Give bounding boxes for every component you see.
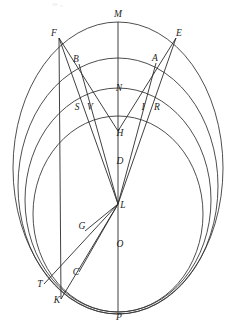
point-label-A: A	[151, 53, 158, 63]
point-label-K: K	[53, 295, 61, 305]
point-label-O: O	[117, 239, 124, 249]
ray-group	[44, 38, 176, 299]
point-label-H: H	[116, 128, 125, 138]
segment-F-K	[59, 38, 61, 299]
segment-F-H	[59, 38, 118, 131]
segment-L-C	[79, 204, 118, 272]
segment-L-T	[44, 204, 118, 284]
point-label-S: S	[75, 102, 80, 112]
segment-B-L	[79, 64, 118, 204]
segment-F-L	[59, 38, 118, 204]
point-label-C: C	[73, 267, 80, 277]
point-label-N: N	[115, 83, 123, 93]
point-label-V: V	[87, 102, 94, 112]
segment-E-H	[118, 38, 176, 131]
point-label-D: D	[116, 156, 124, 166]
point-label-P: P	[115, 312, 122, 322]
segment-A-L	[118, 63, 156, 204]
diagram-canvas: M F E B A N S V I R H D L G O C T K P	[0, 0, 234, 325]
segment-E-L	[118, 38, 176, 204]
point-label-G: G	[79, 221, 86, 231]
point-label-M: M	[113, 9, 123, 19]
segment-L-G	[85, 204, 118, 231]
point-label-E: E	[175, 28, 182, 38]
point-label-T: T	[37, 279, 43, 289]
point-label-B: B	[73, 54, 79, 64]
point-label-F: F	[50, 28, 57, 38]
geometric-diagram: M F E B A N S V I R H D L G O C T K P	[0, 0, 234, 325]
point-label-R: R	[153, 102, 160, 112]
point-label-L: L	[119, 200, 125, 210]
